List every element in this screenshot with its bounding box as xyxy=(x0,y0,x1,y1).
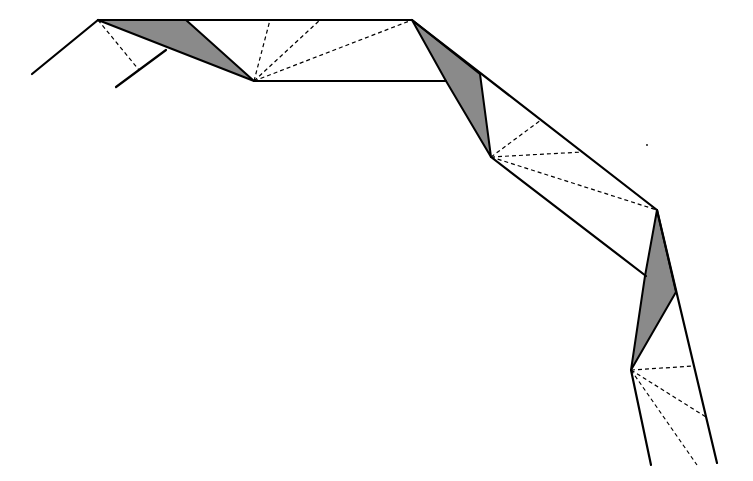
fan-2b-dashed-line xyxy=(491,152,583,157)
fan-1a-dashed-line xyxy=(254,20,270,81)
folded-strip-diagram xyxy=(0,0,753,481)
fan-1b-dashed-line xyxy=(254,20,320,81)
fan-3b-dashed-line xyxy=(631,370,706,417)
fan-1c-dashed-line xyxy=(254,20,412,81)
dashed-crease-lines xyxy=(98,20,706,465)
fan-2c-dashed-line xyxy=(491,157,657,210)
shaded-folds xyxy=(98,20,676,370)
right-outer-diagonal-edge xyxy=(412,20,657,210)
fold-2-shaded-region xyxy=(412,20,491,157)
fan-3a-dashed-line xyxy=(631,366,694,370)
fold-1-shaded-region xyxy=(98,20,254,81)
left-outer-leg-edge xyxy=(32,20,98,74)
lower-outer-edge-edge xyxy=(657,210,717,463)
stray-dot xyxy=(646,144,648,146)
solid-edges xyxy=(32,20,717,465)
fold-3-shaded-region xyxy=(631,210,676,370)
middle-inner-diagonal-edge xyxy=(491,157,646,276)
fan-2a-dashed-line xyxy=(491,120,541,157)
left-inner-leg-edge xyxy=(116,50,166,87)
